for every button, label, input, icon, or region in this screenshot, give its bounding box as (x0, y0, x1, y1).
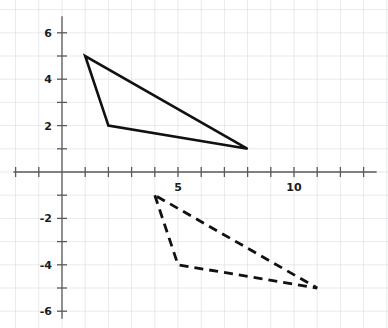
graph-canvas: 510642-2-4-6 (0, 0, 388, 328)
x-tick-label: 5 (174, 181, 182, 194)
y-tick-label: -6 (40, 305, 53, 318)
y-tick-label: 4 (44, 73, 52, 86)
y-tick-label: 6 (44, 27, 52, 40)
x-tick-label: 10 (286, 181, 302, 194)
axes (14, 17, 376, 318)
coordinate-plane-figure: 510642-2-4-6 (0, 0, 388, 328)
y-tick-label: -2 (40, 212, 52, 225)
y-tick-label: -4 (40, 259, 53, 272)
y-tick-label: 2 (44, 120, 52, 133)
grid-lines (0, 0, 388, 328)
